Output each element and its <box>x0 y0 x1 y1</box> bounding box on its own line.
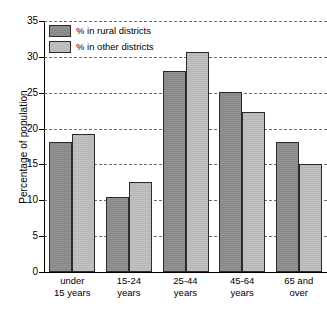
y-tick-label-10: 10 <box>2 195 38 205</box>
y-tick-5 <box>39 236 44 237</box>
legend-item: % in rural districts <box>49 24 181 38</box>
bars-layer <box>44 21 327 272</box>
plot-area <box>44 21 327 272</box>
legend-swatch-other <box>49 41 71 53</box>
x-tick-label: 65 andover <box>270 275 327 299</box>
bar <box>129 182 152 272</box>
bar <box>242 112 265 272</box>
y-tick-15 <box>39 164 44 165</box>
bar <box>219 92 242 272</box>
bar <box>276 142 299 272</box>
y-tick-label-30: 30 <box>2 52 38 62</box>
y-tick-10 <box>39 200 44 201</box>
y-tick-label-25: 25 <box>2 88 38 98</box>
bar <box>186 52 209 272</box>
y-tick-label-35: 35 <box>2 16 38 26</box>
bar <box>72 134 95 272</box>
chart-legend: % in rural districts% in other districts <box>49 24 181 56</box>
bar-chart: Percentage of population 05101520253035 … <box>0 0 327 314</box>
x-axis-line <box>44 272 327 273</box>
y-tick-25 <box>39 93 44 94</box>
bar-group <box>49 21 95 272</box>
legend-item: % in other districts <box>49 40 181 54</box>
y-tick-0 <box>39 272 44 273</box>
legend-label: % in rural districts <box>76 25 151 37</box>
y-tick-20 <box>39 129 44 130</box>
x-axis-tick-labels: under15 years15-24years25-44years45-64ye… <box>44 275 327 313</box>
bar-group <box>219 21 265 272</box>
y-tick-label-0: 0 <box>2 267 38 277</box>
y-tick-label-20: 20 <box>2 124 38 134</box>
legend-label: % in other districts <box>76 41 154 53</box>
legend-swatch-rural <box>49 25 71 37</box>
y-tick-30 <box>39 57 44 58</box>
bar-group <box>276 21 322 272</box>
bar <box>49 142 72 272</box>
bar <box>299 164 322 272</box>
bar-group <box>106 21 152 272</box>
bar <box>163 71 186 272</box>
bar-group <box>163 21 209 272</box>
y-tick-label-15: 15 <box>2 159 38 169</box>
x-tick-label: 15-24years <box>101 275 158 299</box>
y-axis-tick-labels: 05101520253035 <box>0 0 38 314</box>
y-tick-label-5: 5 <box>2 231 38 241</box>
x-tick-label: under15 years <box>44 275 101 299</box>
x-tick-label: 45-64years <box>214 275 271 299</box>
y-tick-35 <box>39 21 44 22</box>
bar <box>106 197 129 272</box>
x-tick-label: 25-44years <box>157 275 214 299</box>
